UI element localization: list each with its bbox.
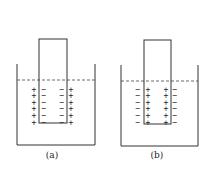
negative-charge: − — [173, 118, 178, 127]
figure-label: (b) — [151, 150, 164, 160]
positive-charge: + — [164, 118, 169, 127]
negative-charge: − — [42, 118, 47, 127]
figure-a: ++++++−−−−−−−−−−−−++++++(a) — [17, 39, 95, 160]
positive-charge: + — [69, 118, 74, 127]
beaker — [121, 65, 198, 146]
positive-charge: + — [146, 118, 151, 127]
diagram-canvas: ++++++−−−−−−−−−−−−++++++(a)−−−−−−+++++++… — [0, 0, 212, 183]
positive-charge: + — [32, 118, 37, 127]
beaker — [17, 64, 95, 145]
figure-b: −−−−−−++++++++++++−−−−−−(b) — [121, 40, 198, 160]
negative-charge: − — [136, 118, 141, 127]
negative-charge: − — [60, 118, 65, 127]
figure-label: (a) — [46, 150, 58, 160]
